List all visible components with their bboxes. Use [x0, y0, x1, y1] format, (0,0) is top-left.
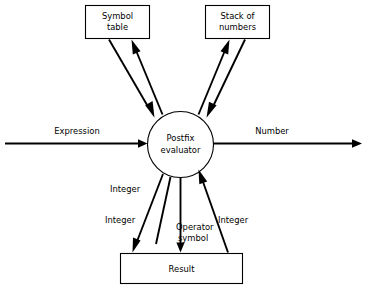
node-stack-of-numbers-label-line1: Stack of — [221, 11, 256, 21]
edge-label-integer-upper-left: Integer — [110, 184, 141, 194]
node-symbol-table-label-line2: table — [107, 22, 128, 32]
edge-label-expression: Expression — [54, 126, 99, 136]
node-postfix-evaluator-label-line2: evaluator — [161, 145, 201, 155]
edge-expression-input — [5, 139, 148, 147]
edge-label-operator-symbol-line2: symbol — [178, 233, 208, 243]
dataflow-diagram: Symbol table Stack of numbers Result Pos… — [0, 0, 368, 290]
node-postfix-evaluator-label-line1: Postfix — [167, 133, 195, 143]
edge-label-integer-lower-left: Integer — [105, 215, 136, 225]
edge-label-operator-symbol-line1: Operator — [176, 222, 214, 232]
edge-label-number: Number — [255, 126, 289, 136]
edge-number-output — [214, 139, 363, 147]
node-stack-of-numbers-label-line2: numbers — [219, 22, 256, 32]
node-result-label: Result — [169, 264, 196, 274]
edge-label-integer-right: Integer — [218, 215, 249, 225]
diagram-canvas: Symbol table Stack of numbers Result Pos… — [0, 0, 368, 290]
node-symbol-table-label-line1: Symbol — [102, 11, 133, 21]
